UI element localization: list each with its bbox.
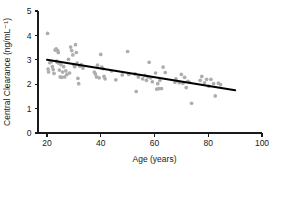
data-point (151, 80, 155, 84)
data-point (77, 82, 81, 86)
data-point (212, 82, 216, 86)
data-point (180, 73, 184, 77)
data-point (198, 78, 202, 82)
data-point (52, 72, 56, 76)
x-tick-label: 80 (204, 138, 214, 148)
y-tick-label: 0 (27, 128, 32, 138)
data-point (154, 71, 158, 75)
regression-line (47, 60, 235, 91)
data-point (74, 51, 78, 55)
data-point (145, 78, 149, 82)
data-point (213, 94, 217, 98)
data-point (114, 78, 118, 82)
data-point (69, 45, 73, 49)
data-point (156, 82, 160, 86)
data-point (70, 49, 74, 53)
data-point (200, 75, 204, 79)
data-point (103, 77, 107, 81)
data-point (134, 90, 138, 94)
data-point (141, 77, 145, 81)
data-point (97, 76, 101, 80)
data-point (76, 76, 80, 80)
data-point (126, 50, 130, 54)
y-axis-title: Central Clearance (ng/mL⁻¹) (2, 18, 12, 126)
x-tick-label: 20 (42, 138, 52, 148)
data-point (64, 69, 68, 73)
chart-figure: 012345 20406080100 Age (years) Central C… (0, 0, 286, 202)
data-point (56, 51, 60, 55)
data-point (190, 101, 194, 105)
data-point (71, 53, 75, 57)
data-point (219, 83, 223, 87)
x-axis-tick-labels: 20406080100 (42, 138, 269, 148)
data-point (68, 71, 72, 75)
x-tick-label: 100 (255, 138, 269, 148)
data-point (74, 43, 78, 47)
data-point (61, 70, 65, 74)
data-point (163, 71, 167, 75)
x-tick-label: 60 (150, 138, 160, 148)
data-point (147, 60, 151, 64)
y-tick-label: 5 (27, 6, 32, 16)
data-point (183, 76, 187, 80)
y-axis-tick-labels: 012345 (27, 6, 32, 138)
y-tick-label: 2 (27, 79, 32, 89)
x-axis-title: Age (years) (133, 154, 177, 164)
data-point (203, 81, 207, 85)
data-point (161, 65, 165, 69)
data-points (46, 32, 223, 105)
data-point (209, 77, 213, 81)
data-point (205, 77, 209, 81)
scatter-plot: 012345 20406080100 Age (years) Central C… (0, 0, 286, 202)
data-point (58, 68, 62, 72)
data-point (99, 53, 103, 57)
data-point (62, 65, 66, 69)
y-tick-label: 4 (27, 31, 32, 41)
data-point (96, 63, 100, 67)
data-point (160, 87, 164, 91)
data-point (51, 68, 55, 72)
x-tick-label: 40 (96, 138, 106, 148)
data-point (120, 73, 124, 77)
y-tick-label: 3 (27, 55, 32, 65)
data-point (47, 70, 51, 74)
data-point (184, 86, 188, 90)
data-point (67, 57, 71, 61)
y-tick-label: 1 (27, 104, 32, 114)
data-point (46, 32, 50, 36)
